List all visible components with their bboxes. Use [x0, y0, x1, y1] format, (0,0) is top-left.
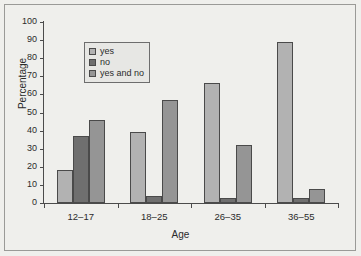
legend-swatch-icon [89, 70, 96, 77]
x-axis-tick-mark [44, 204, 45, 208]
bar [293, 198, 309, 203]
legend-item: yes [89, 46, 144, 57]
bar [162, 100, 178, 203]
y-axis-tick: 0 [0, 203, 44, 204]
x-axis-title: Age [0, 229, 361, 240]
y-axis-tick-label: 90 [27, 34, 37, 45]
x-axis-category-label: 18–25 [124, 211, 184, 222]
x-axis-category-label: 36–55 [271, 211, 331, 222]
y-axis-title: Percentage [17, 34, 28, 134]
y-axis-tick: 30 [0, 149, 44, 150]
x-axis-tick-mark [191, 204, 192, 208]
y-axis-tick-label: 50 [27, 107, 37, 118]
bar [89, 120, 105, 203]
bar-chart-figure: 0102030405060708090100 12–1718–2526–3536… [0, 0, 361, 256]
legend-item: yes and no [89, 68, 144, 79]
bar [130, 132, 146, 203]
y-axis-tick-label: 30 [27, 143, 37, 154]
x-axis-category-label: 12–17 [51, 211, 111, 222]
y-axis-tick-label: 100 [22, 16, 37, 27]
x-axis-tick-mark [265, 204, 266, 208]
bar [57, 170, 73, 203]
y-axis-tick-label: 0 [32, 197, 37, 208]
y-axis-tick-label: 20 [27, 161, 37, 172]
y-axis-tick-label: 10 [27, 179, 37, 190]
chart-legend: yesnoyes and no [84, 42, 150, 83]
y-axis-tick-label: 40 [27, 125, 37, 136]
bar [309, 189, 325, 203]
legend-swatch-icon [89, 59, 96, 66]
bar [220, 198, 236, 203]
legend-item: no [89, 57, 144, 68]
bar [73, 136, 89, 203]
y-axis-tick-label: 70 [27, 70, 37, 81]
y-axis-tick-label: 60 [27, 88, 37, 99]
y-axis-tick: 20 [0, 167, 44, 168]
legend-swatch-icon [89, 48, 96, 55]
y-axis-tick: 100 [0, 22, 44, 23]
x-axis-tick-mark [118, 204, 119, 208]
x-axis-category-label: 26–35 [198, 211, 258, 222]
bar [146, 196, 162, 203]
y-axis-tick-label: 80 [27, 52, 37, 63]
bar [277, 42, 293, 203]
y-axis-tick: 10 [0, 185, 44, 186]
bar [204, 83, 220, 203]
legend-item-label: yes and no [100, 68, 144, 79]
legend-item-label: yes [100, 46, 114, 57]
bar [236, 145, 252, 203]
legend-item-label: no [100, 57, 110, 68]
x-axis-tick-mark [338, 204, 339, 208]
